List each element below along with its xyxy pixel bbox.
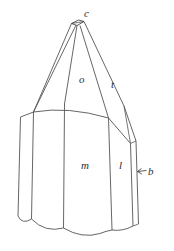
pyramid-edge-t-right-connector: [124, 106, 131, 144]
base-edge-center: [64, 228, 113, 235]
pyramid-edge-right-outer: [84, 22, 124, 107]
prism-edge-b-top: [131, 141, 137, 144]
pyramid-edge-o-t: [80, 26, 109, 119]
face-label-c: c: [84, 8, 89, 19]
pyramid-edge-right-inner: [124, 106, 136, 141]
base-edge-far-left: [18, 216, 32, 221]
pyramid-edge-left: [34, 24, 72, 113]
face-label-m: m: [81, 160, 89, 171]
prism-edge-median-left: [64, 104, 65, 228]
face-label-o: o: [79, 74, 85, 85]
leader-line-b: [138, 169, 147, 175]
pyramid-edge-t-lower: [109, 118, 131, 144]
face-label-t: t: [111, 79, 114, 90]
prism-edge-right: [131, 144, 134, 227]
base-edge-left: [32, 219, 64, 229]
prism-edge-b-outer: [136, 141, 139, 224]
face-label-l: l: [119, 160, 122, 171]
shoulder-edge-left-short: [21, 112, 34, 117]
apex-facet-c: [72, 20, 85, 26]
pyramid-edge-left-inner: [34, 25, 77, 112]
pyramid-edge-median-left: [65, 26, 78, 105]
prism-edge-left: [32, 112, 34, 219]
crystal-drawing: [0, 0, 174, 251]
base-edge-right: [112, 226, 133, 230]
shoulder-edge-front: [34, 110, 109, 118]
face-label-b: b: [148, 166, 154, 177]
crystal-figure: c o t m l b: [0, 0, 174, 251]
prism-edge-m-l: [109, 118, 113, 230]
prism-edge-b-bottom: [133, 224, 139, 226]
prism-edge-far-left: [18, 117, 21, 216]
